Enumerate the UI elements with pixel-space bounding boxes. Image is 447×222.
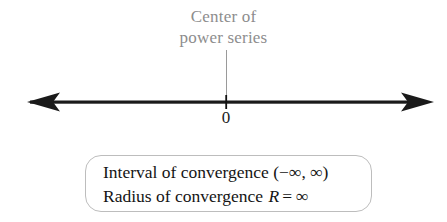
interval-of-convergence-line: Interval of convergence (−∞, ∞): [86, 160, 371, 184]
power-series-interval-figure: Center of power series 0 Interval of con…: [0, 0, 447, 222]
radius-of-convergence-prefix: Radius of convergence: [103, 186, 267, 206]
convergence-callout-box: Interval of convergence (−∞, ∞) Radius o…: [85, 155, 372, 212]
annotation-line-2: power series: [0, 27, 447, 48]
tick-mark-zero: [225, 95, 227, 109]
radius-of-convergence-line: Radius of convergence R=∞: [86, 184, 371, 208]
radius-equals-sign: =: [280, 186, 294, 206]
interval-of-convergence-value: (−∞, ∞): [273, 162, 328, 182]
interval-of-convergence-prefix: Interval of convergence: [103, 162, 273, 182]
radius-symbol: R: [267, 186, 280, 206]
tick-label-zero: 0: [214, 108, 238, 128]
annotation-line-1: Center of: [191, 7, 257, 26]
center-of-power-series-label: Center of power series: [0, 6, 447, 48]
radius-value: ∞: [294, 186, 310, 206]
axis-shaft: [30, 101, 417, 104]
